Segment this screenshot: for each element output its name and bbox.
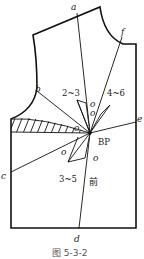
angle-mark: o — [93, 153, 99, 163]
label-d: d — [74, 234, 80, 244]
label-b: b — [35, 84, 41, 94]
label-dart-4-6: 4~6 — [107, 88, 125, 98]
label-bp: BP — [98, 137, 110, 147]
figure-caption: 图 5-3-2 — [52, 248, 88, 258]
label-dart-3-5: 3~5 — [59, 174, 77, 184]
angle-mark: o — [90, 108, 96, 118]
label-a: a — [71, 2, 76, 12]
bodice-outline — [11, 7, 136, 228]
angle-mark: o — [74, 123, 80, 133]
label-dart-2-3: 2~3 — [62, 88, 80, 98]
angle-mark: o — [61, 147, 67, 157]
label-c: c — [1, 171, 6, 181]
bust-point — [88, 131, 92, 135]
label-e: e — [137, 114, 142, 124]
rotation-lines — [11, 13, 136, 228]
label-front: 前 — [89, 176, 98, 187]
pattern-diagram: a b c d e f 2~3 4~6 3~5 o o o o o BP 前 图… — [0, 0, 144, 259]
label-f: f — [120, 27, 126, 37]
